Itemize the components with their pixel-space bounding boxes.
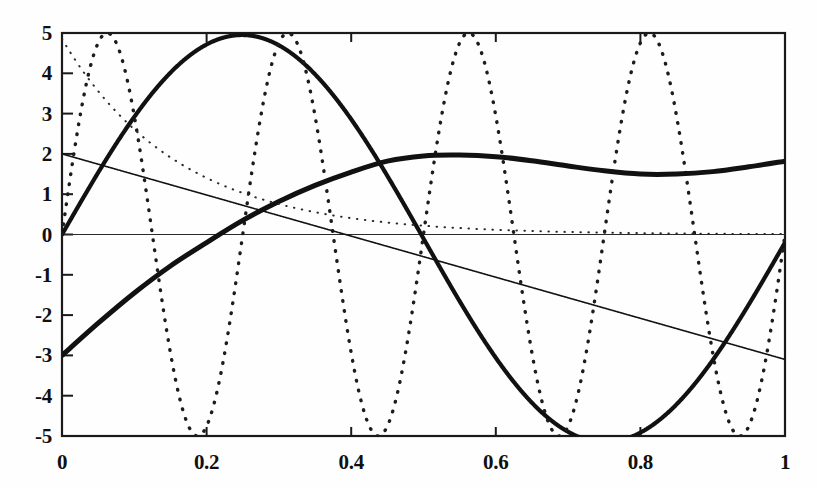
y-tick-label--2: -2 bbox=[8, 303, 52, 328]
chart-plot-svg bbox=[0, 0, 817, 488]
y-tick-label--1: -1 bbox=[8, 262, 52, 287]
y-tick-label--5: -5 bbox=[8, 424, 52, 449]
y-tick-label-5: 5 bbox=[8, 21, 52, 46]
x-tick-label-0: 0 bbox=[57, 450, 67, 475]
x-tick-label-0.2: 0.2 bbox=[194, 450, 219, 475]
y-tick-label--4: -4 bbox=[8, 383, 52, 408]
y-tick-label--3: -3 bbox=[8, 343, 52, 368]
y-tick-label-4: 4 bbox=[8, 61, 52, 86]
x-tick-label-1: 1 bbox=[780, 450, 790, 475]
y-tick-label-2: 2 bbox=[8, 141, 52, 166]
x-tick-label-0.6: 0.6 bbox=[483, 450, 508, 475]
chart-figure: 543210-1-2-3-4-500.20.40.60.81 bbox=[0, 0, 817, 488]
x-tick-label-0.8: 0.8 bbox=[628, 450, 653, 475]
y-tick-label-0: 0 bbox=[8, 222, 52, 247]
x-tick-label-0.4: 0.4 bbox=[339, 450, 364, 475]
y-tick-label-3: 3 bbox=[8, 101, 52, 126]
y-tick-label-1: 1 bbox=[8, 182, 52, 207]
